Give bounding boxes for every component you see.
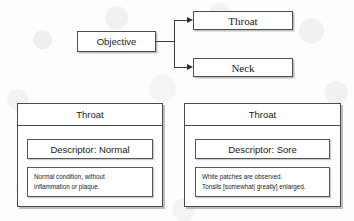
panel-throat-sore: Throat Descriptor: Sore White patches ar… <box>184 103 341 207</box>
connector-branch-throat <box>174 20 188 21</box>
node-neck: Neck <box>193 58 293 77</box>
node-throat: Throat <box>193 11 293 30</box>
panel-throat-normal: Throat Descriptor: Normal Normal conditi… <box>17 103 163 207</box>
detail-right-line-1: White patches are observed. <box>202 172 323 182</box>
connector-spine <box>174 20 175 68</box>
detail-box-left: Normal condition, without inflammation o… <box>27 167 153 197</box>
node-neck-label: Neck <box>231 62 254 74</box>
panel-header-right-label: Throat <box>249 109 276 120</box>
diagram-canvas: Objective Throat Neck Throat Descriptor:… <box>0 0 354 221</box>
detail-left-line-2: inflammation or plaque. <box>34 182 146 192</box>
panel-header-right: Throat <box>185 104 340 126</box>
panel-header-left-label: Throat <box>76 109 103 120</box>
node-throat-label: Throat <box>228 15 257 27</box>
descriptor-box-right: Descriptor: Sore <box>195 139 330 159</box>
detail-left-line-1: Normal condition, without <box>34 172 146 182</box>
node-objective: Objective <box>77 31 156 52</box>
connector-branch-neck <box>174 67 188 68</box>
panel-header-left: Throat <box>18 104 162 126</box>
descriptor-left-label: Descriptor: Normal <box>50 144 129 155</box>
connector-stem <box>156 41 175 42</box>
descriptor-right-label: Descriptor: Sore <box>228 144 297 155</box>
detail-box-right: White patches are observed. Tonsils [som… <box>195 167 330 197</box>
detail-right-line-2: Tonsils [somewhat| greatly] enlarged. <box>202 182 323 192</box>
node-objective-label: Objective <box>97 36 137 47</box>
descriptor-box-left: Descriptor: Normal <box>27 139 153 159</box>
